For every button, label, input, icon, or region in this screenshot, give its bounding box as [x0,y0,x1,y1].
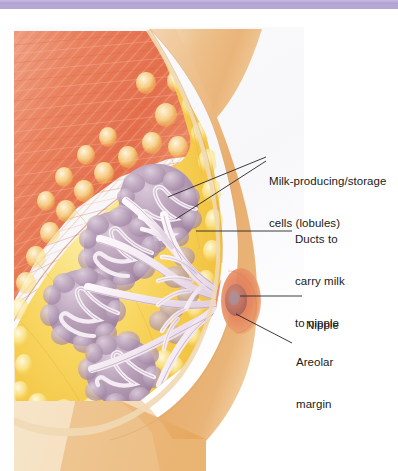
breast-anatomy-figure: Milk-producing/storage cells (lobules) D… [0,9,398,471]
ducts-label-line2: carry milk [295,274,345,288]
areolar-label-line1: Areolar [296,355,333,369]
areolar-label-line2: margin [296,397,333,411]
lobules-label-line1: Milk-producing/storage [269,174,386,188]
nipple-pore [229,291,239,305]
top-decorative-bar [0,0,398,9]
top-bar-sheen [0,0,398,4]
ducts-label-line1: Ducts to [295,232,345,246]
areolar-margin-label: Areolar margin [296,327,333,439]
figure-page: Milk-producing/storage cells (lobules) D… [0,0,398,471]
